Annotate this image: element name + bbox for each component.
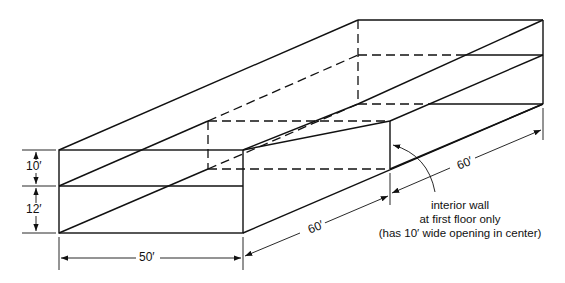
interior-wall-note: interior wall at first floor only (has 1… bbox=[360, 198, 560, 240]
dim-lower-height: 12′ bbox=[26, 203, 42, 216]
diagram-lines bbox=[0, 0, 565, 283]
note-line-3: (has 10′ wide opening in center) bbox=[360, 226, 560, 240]
back-face bbox=[358, 20, 543, 104]
building-diagram: 10′ 12′ 50′ 60′ 60′ interior wall at fir… bbox=[0, 0, 565, 283]
note-line-1: interior wall bbox=[360, 198, 560, 212]
dim-width: 50′ bbox=[136, 251, 158, 264]
note-line-2: at first floor only bbox=[360, 212, 560, 226]
dim-upper-height: 10′ bbox=[26, 160, 42, 173]
